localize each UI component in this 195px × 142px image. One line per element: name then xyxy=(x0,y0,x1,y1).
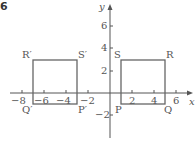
rectangle-pqrs xyxy=(121,60,165,104)
y-tick-label: 4 xyxy=(101,42,107,53)
coordinate-plane-diagram: 6 x y −8 −6 −4 −2 2 4 6 6 4 2 −2 S R P Q xyxy=(0,0,195,142)
vertex-label-p-prime: P′ xyxy=(78,104,88,115)
x-tick-label: 6 xyxy=(173,95,179,106)
x-axis-arrow-icon xyxy=(187,91,193,96)
vertex-label-p: P xyxy=(115,104,122,115)
vertex-label-q: Q xyxy=(164,104,172,115)
vertex-label-s-prime: S′ xyxy=(78,49,88,60)
y-tick-label: 2 xyxy=(101,65,107,76)
figure-number: 6 xyxy=(0,0,8,13)
y-tick-label: −2 xyxy=(95,109,110,120)
y-axis-arrow-icon xyxy=(108,4,113,10)
vertex-label-r: R xyxy=(166,49,174,60)
vertex-label-s: S xyxy=(114,49,121,60)
vertex-label-r-prime: R′ xyxy=(22,49,33,60)
y-axis-label: y xyxy=(98,1,105,12)
vertex-label-q-prime: Q′ xyxy=(22,104,33,115)
x-axis-label: x xyxy=(189,96,195,107)
y-tick-label: 6 xyxy=(101,20,107,31)
